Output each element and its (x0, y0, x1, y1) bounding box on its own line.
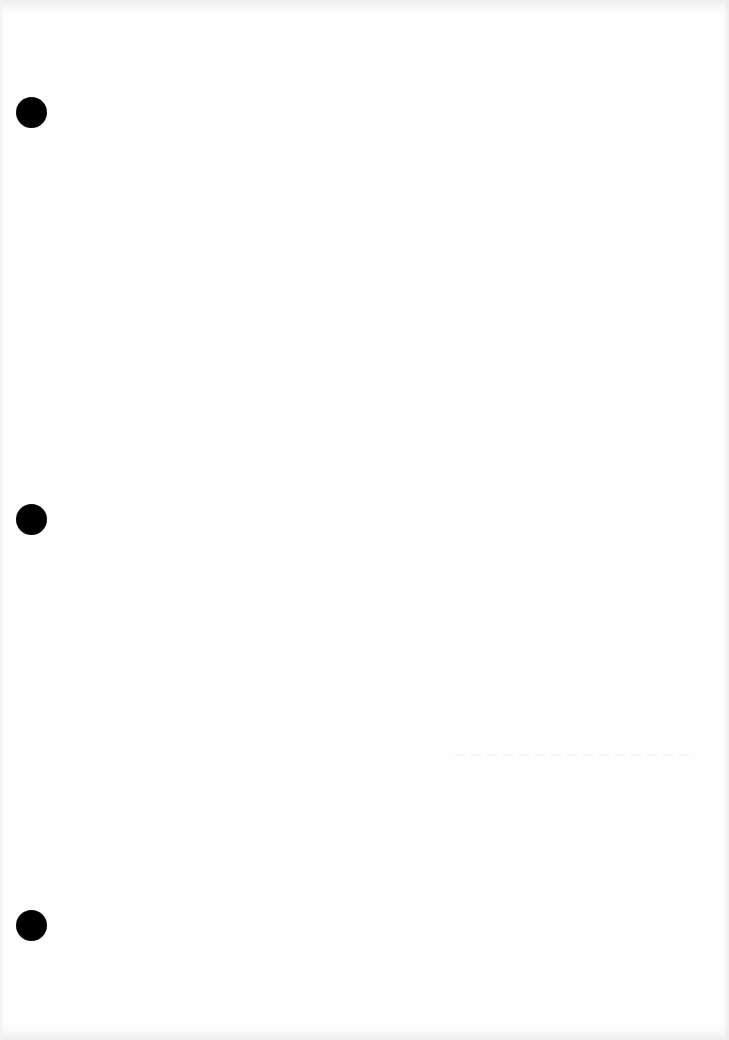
scan-edge-left (0, 0, 4, 1040)
punch-hole-middle (16, 504, 47, 535)
scan-edge-bottom (0, 1024, 729, 1040)
punch-hole-top (16, 97, 47, 128)
scanned-page (0, 0, 729, 1040)
scan-edge-right (723, 0, 729, 1040)
punch-hole-bottom (16, 910, 47, 941)
scan-edge-top (0, 0, 729, 14)
bleed-through-mark (455, 754, 695, 756)
